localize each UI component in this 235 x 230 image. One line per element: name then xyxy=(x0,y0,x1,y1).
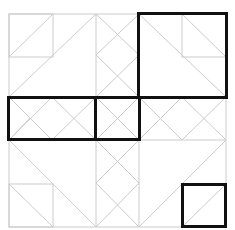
zigzag xyxy=(96,14,139,97)
zigzag xyxy=(96,140,139,227)
diagonal xyxy=(9,184,53,227)
grid-canvas xyxy=(0,0,235,230)
puzzle-diagram xyxy=(0,0,235,230)
thin-grid xyxy=(9,14,226,227)
highlighted-regions xyxy=(9,14,227,227)
diagonal xyxy=(9,14,53,57)
zigzag xyxy=(9,97,226,140)
diagonal xyxy=(182,184,226,227)
highlight-middle-left-rectangle[interactable] xyxy=(9,98,96,140)
diagonal xyxy=(182,14,226,57)
outer-frame xyxy=(9,14,226,227)
zigzag xyxy=(96,140,139,227)
zigzag xyxy=(9,97,30,140)
zigzag xyxy=(96,14,139,97)
